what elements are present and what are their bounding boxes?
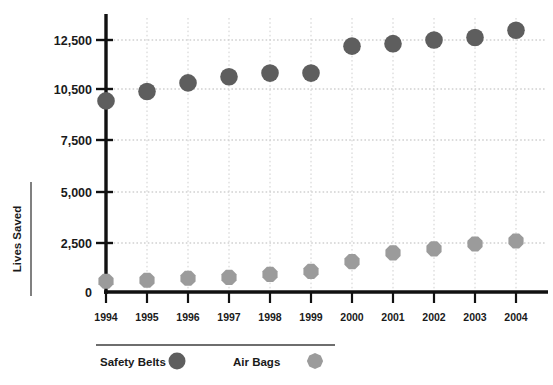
- data-point[interactable]: [221, 270, 236, 285]
- legend-entry-air-bags[interactable]: Air Bags: [233, 353, 323, 369]
- xtick-label-2002: 2002: [422, 311, 446, 323]
- ytick-label-10500: 10,500: [54, 83, 92, 97]
- legend-label-air-bags: Air Bags: [233, 356, 280, 368]
- data-point[interactable]: [303, 264, 318, 279]
- octagon-marker-icon: [307, 353, 323, 369]
- data-point[interactable]: [261, 64, 279, 82]
- data-point[interactable]: [220, 68, 238, 86]
- xtick-label-1997: 1997: [217, 311, 241, 323]
- chart-container: 12,500 10,500 7,500 5,000 2,500 0 Lives …: [0, 0, 553, 385]
- y-axis-title: Lives Saved: [11, 206, 23, 272]
- ytick-label-2500: 2,500: [61, 237, 92, 251]
- xtick-label-1998: 1998: [258, 311, 282, 323]
- data-point[interactable]: [466, 29, 484, 47]
- data-point[interactable]: [384, 35, 402, 53]
- ytick-label-7500: 7,500: [61, 134, 92, 148]
- ytick-label-5000: 5,000: [61, 186, 92, 200]
- xtick-label-1994: 1994: [94, 311, 118, 323]
- data-point[interactable]: [302, 64, 320, 82]
- xtick-label-1996: 1996: [176, 311, 200, 323]
- legend-entry-safety-belts[interactable]: Safety Belts: [100, 353, 186, 370]
- data-point[interactable]: [138, 83, 156, 101]
- data-point[interactable]: [385, 245, 400, 260]
- data-point[interactable]: [97, 92, 115, 110]
- legend-label-safety-belts: Safety Belts: [100, 356, 166, 368]
- data-point[interactable]: [343, 37, 361, 55]
- data-point[interactable]: [139, 273, 154, 288]
- data-point[interactable]: [425, 31, 443, 49]
- xtick-label-1999: 1999: [299, 311, 323, 323]
- data-point[interactable]: [344, 254, 359, 269]
- data-point[interactable]: [508, 233, 523, 248]
- data-point[interactable]: [98, 274, 113, 289]
- data-point[interactable]: [179, 74, 197, 92]
- circle-marker-icon: [169, 353, 186, 370]
- xtick-label-1995: 1995: [135, 311, 159, 323]
- lives-saved-scatter-chart: 12,500 10,500 7,500 5,000 2,500 0 Lives …: [0, 0, 553, 385]
- xtick-label-2004: 2004: [504, 311, 528, 323]
- xtick-label-2003: 2003: [463, 311, 487, 323]
- ytick-label-12500: 12,500: [54, 34, 92, 48]
- data-point[interactable]: [426, 241, 441, 256]
- data-point[interactable]: [180, 271, 195, 286]
- data-point[interactable]: [507, 21, 525, 39]
- ytick-label-0: 0: [85, 286, 92, 300]
- xtick-label-2001: 2001: [381, 311, 405, 323]
- xtick-label-2000: 2000: [340, 311, 364, 323]
- data-point[interactable]: [262, 267, 277, 282]
- data-point[interactable]: [467, 236, 482, 251]
